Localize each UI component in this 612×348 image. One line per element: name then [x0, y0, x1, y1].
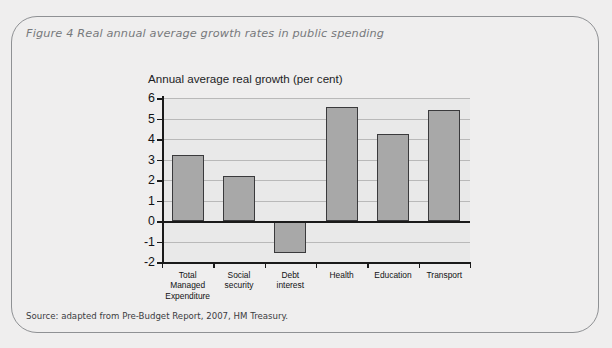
x-axis-category-label: Total Managed Expenditure — [162, 270, 213, 301]
bar — [172, 155, 204, 221]
zero-line — [162, 221, 470, 223]
x-axis-tick — [213, 262, 214, 268]
y-axis-tick-label: 5 — [140, 112, 155, 126]
y-axis-tick-label: 1 — [140, 194, 155, 208]
gridline — [162, 201, 470, 202]
x-axis-tick — [265, 262, 266, 268]
y-axis-tick-label: -1 — [140, 235, 155, 249]
bar — [377, 134, 409, 221]
x-axis-category-label: Transport — [419, 270, 470, 280]
y-axis-tick-label: 0 — [140, 214, 155, 228]
x-axis-tick — [470, 262, 471, 268]
gridline — [162, 242, 470, 243]
bar — [274, 221, 306, 253]
y-axis-tick-label: -2 — [140, 255, 155, 269]
x-axis-category-label: Debt interest — [265, 270, 316, 291]
x-axis-tick — [419, 262, 420, 268]
figure-caption: Figure 4 Real annual average growth rate… — [26, 27, 546, 40]
bar-chart: Annual average real growth (per cent) 65… — [140, 72, 485, 297]
x-axis-tick — [367, 262, 368, 268]
chart-axis-title: Annual average real growth (per cent) — [148, 72, 343, 85]
y-axis-tick-label: 4 — [140, 132, 155, 146]
gridline — [162, 160, 470, 161]
bar — [223, 176, 255, 221]
plot-area — [162, 98, 470, 262]
bar — [326, 107, 358, 221]
y-axis-tick-label: 2 — [140, 173, 155, 187]
gridline — [162, 119, 470, 120]
y-axis-tick-label: 6 — [140, 91, 155, 105]
y-axis — [162, 96, 164, 264]
x-axis-category-label: Education — [367, 270, 418, 280]
gridline — [162, 180, 470, 181]
bar — [428, 110, 460, 221]
x-axis-tick — [316, 262, 317, 268]
x-axis-category-label: Social security — [213, 270, 264, 291]
x-axis-tick — [162, 262, 163, 268]
gridline — [162, 139, 470, 140]
gridline — [162, 98, 470, 99]
source-note: Source: adapted from Pre-Budget Report, … — [26, 311, 288, 321]
x-axis-category-label: Health — [316, 270, 367, 280]
y-axis-tick-label: 3 — [140, 153, 155, 167]
